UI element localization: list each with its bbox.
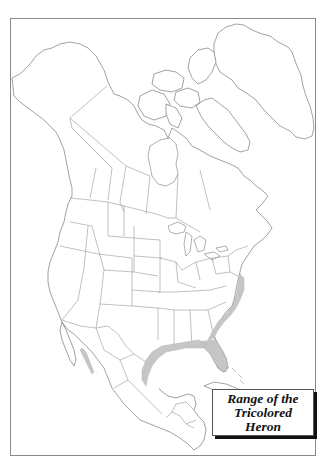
legend-line-2: Tricolored — [234, 406, 292, 420]
legend-line-1: Range of the — [227, 392, 298, 406]
map-legend-title: Range of the Tricolored Heron — [212, 389, 314, 436]
arctic-island-a — [152, 70, 184, 92]
victoria-island — [138, 90, 170, 120]
baffin-island — [196, 98, 250, 152]
ellesmere-island — [188, 48, 216, 84]
arctic-island-c — [166, 104, 182, 128]
bahamas — [232, 368, 244, 384]
legend-line-3: Heron — [245, 420, 281, 434]
arctic-island-b — [174, 88, 200, 108]
